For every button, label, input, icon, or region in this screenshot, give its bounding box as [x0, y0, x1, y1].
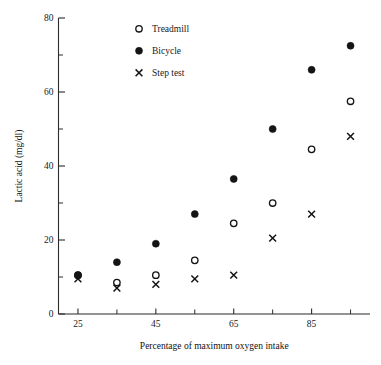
- data-point-open-circle-marker: [153, 272, 159, 278]
- data-point-filled-circle-marker: [74, 272, 81, 279]
- y-tick-label: 40: [44, 161, 54, 171]
- legend-label-step-test: Step test: [152, 68, 185, 78]
- y-tick-label: 60: [44, 87, 54, 97]
- data-point-open-circle-marker: [114, 279, 120, 285]
- legend-swatch-open-circle-marker: [136, 26, 142, 32]
- data-point-cross-marker: [269, 235, 276, 242]
- y-axis-title: Lactic acid (mg/dl): [14, 130, 25, 203]
- x-tick-label: 65: [229, 319, 239, 329]
- data-point-filled-circle-marker: [191, 211, 198, 218]
- data-point-filled-circle-marker: [269, 126, 276, 133]
- x-tick-label: 45: [151, 319, 161, 329]
- data-point-filled-circle-marker: [113, 259, 120, 266]
- data-point-open-circle-marker: [269, 200, 275, 206]
- y-tick-label: 80: [44, 13, 54, 23]
- x-tick-label: 25: [73, 319, 83, 329]
- data-point-cross-marker: [308, 211, 315, 218]
- data-point-cross-marker: [191, 275, 198, 282]
- legend-swatch-cross-marker: [136, 69, 143, 76]
- data-point-filled-circle-marker: [347, 42, 354, 49]
- y-tick-label: 0: [49, 309, 54, 319]
- legend-swatch-filled-circle-marker: [136, 47, 143, 54]
- data-point-filled-circle-marker: [152, 240, 159, 247]
- scatter-chart-figure: 02040608025456585Percentage of maximum o…: [0, 0, 381, 365]
- chart-canvas: 02040608025456585Percentage of maximum o…: [0, 0, 381, 365]
- data-point-filled-circle-marker: [308, 66, 315, 73]
- data-point-open-circle-marker: [308, 146, 314, 152]
- data-point-open-circle-marker: [192, 257, 198, 263]
- data-point-cross-marker: [347, 133, 354, 140]
- legend-label-treadmill: Treadmill: [152, 24, 189, 34]
- data-point-filled-circle-marker: [230, 175, 237, 182]
- x-axis-title: Percentage of maximum oxygen intake: [140, 341, 289, 351]
- data-point-cross-marker: [152, 281, 159, 288]
- x-tick-label: 85: [307, 319, 317, 329]
- data-point-cross-marker: [230, 272, 237, 279]
- data-point-open-circle-marker: [231, 220, 237, 226]
- data-point-open-circle-marker: [347, 98, 353, 104]
- y-tick-label: 20: [44, 235, 54, 245]
- legend-label-bicycle: Bicycle: [152, 46, 181, 56]
